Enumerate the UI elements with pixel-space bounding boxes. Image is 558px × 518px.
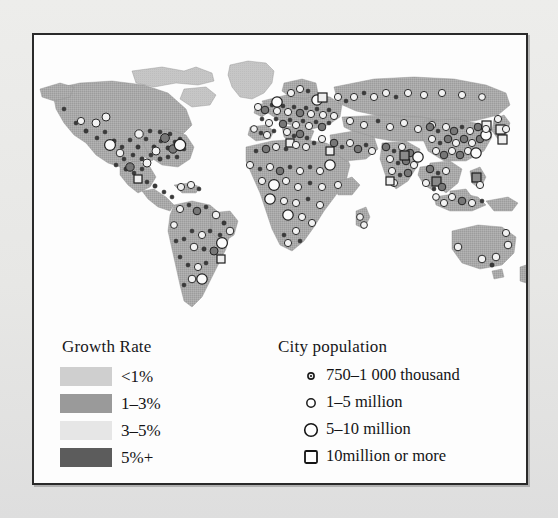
page-background: Growth Rate <1% 1–3% 3–5% xyxy=(0,0,558,518)
city-label-1-5-million: 1–5 million xyxy=(326,394,403,411)
square-icon xyxy=(296,448,326,466)
figure-frame: Growth Rate <1% 1–3% 3–5% xyxy=(32,33,528,485)
growth-label-1-3: 1–3% xyxy=(121,395,161,412)
city-label-750-1000-thousand: 750–1 000 thousand xyxy=(326,367,460,384)
small-circle-icon xyxy=(296,396,326,410)
city-population-legend-item: 5–10 million xyxy=(278,416,528,443)
tasmania xyxy=(492,269,504,279)
growth-swatch-1-3 xyxy=(60,394,112,413)
world-map xyxy=(34,35,526,335)
city-population-legend-item: 750–1 000 thousand xyxy=(278,362,528,389)
city-population-legend-item: 10million or more xyxy=(278,443,528,470)
growth-swatch-3-5 xyxy=(60,421,112,440)
growth-rate-legend-item: <1% xyxy=(60,363,260,390)
growth-rate-legend-item: 5%+ xyxy=(60,444,260,471)
city-label-10-million-or-more: 10million or more xyxy=(326,448,446,465)
small-filled-dot-icon xyxy=(296,370,326,382)
city-population-legend: City population 750–1 000 thousand xyxy=(278,337,528,470)
growth-label-5-plus: 5%+ xyxy=(121,449,153,466)
large-circle-icon xyxy=(296,421,326,439)
city-label-5-10-million: 5–10 million xyxy=(326,421,411,438)
growth-swatch-5-plus xyxy=(60,448,112,467)
city-population-legend-item: 1–5 million xyxy=(278,389,528,416)
new-zealand xyxy=(520,265,526,283)
growth-rate-legend-title: Growth Rate xyxy=(62,337,260,357)
growth-label-under-1: <1% xyxy=(121,368,153,385)
growth-swatch-under-1 xyxy=(60,367,112,386)
growth-rate-legend-item: 1–3% xyxy=(60,390,260,417)
legend-area: Growth Rate <1% 1–3% 3–5% xyxy=(34,333,526,483)
growth-rate-legend-item: 3–5% xyxy=(60,417,260,444)
map-plate: Growth Rate <1% 1–3% 3–5% xyxy=(34,35,526,483)
growth-rate-legend: Growth Rate <1% 1–3% 3–5% xyxy=(60,337,260,471)
city-population-legend-title: City population xyxy=(278,337,528,357)
growth-label-3-5: 3–5% xyxy=(121,422,161,439)
